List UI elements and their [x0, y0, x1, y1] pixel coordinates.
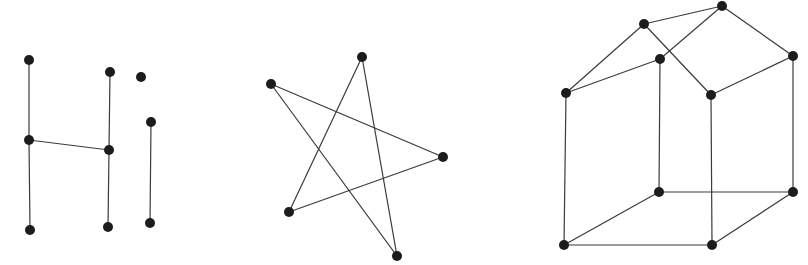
edge-i2-i3 — [150, 122, 151, 223]
edge-a-d — [566, 24, 644, 93]
edge-c-d — [566, 59, 660, 93]
node-s5 — [392, 251, 402, 261]
edge-b-c — [660, 6, 722, 59]
edge-a-e — [644, 24, 711, 95]
node-b — [717, 1, 727, 11]
edge-h4-h5 — [109, 72, 110, 150]
node-h6 — [103, 222, 113, 232]
node-g — [654, 187, 664, 197]
edge-b-f — [722, 6, 793, 56]
edge-e-j — [711, 95, 712, 245]
node-h3 — [25, 225, 35, 235]
node-i1 — [136, 72, 146, 82]
node-h — [788, 187, 798, 197]
hi-graph — [24, 55, 156, 235]
star-graph — [266, 52, 448, 261]
node-h1 — [24, 55, 34, 65]
edge-h5-h6 — [108, 150, 109, 227]
edge-c-g — [659, 59, 660, 192]
node-s2 — [266, 79, 276, 89]
node-s1 — [357, 52, 367, 62]
edge-s2-s5 — [271, 84, 397, 256]
edge-s1-s5 — [362, 57, 397, 256]
node-s4 — [284, 207, 294, 217]
node-h2 — [24, 135, 34, 145]
edge-h-j — [712, 192, 793, 245]
node-s3 — [438, 152, 448, 162]
edge-d-i — [564, 93, 566, 245]
edge-s1-s4 — [289, 57, 362, 212]
edge-e-f — [711, 56, 793, 95]
node-f — [788, 51, 798, 61]
node-d — [561, 88, 571, 98]
node-i — [559, 240, 569, 250]
edge-g-i — [564, 192, 659, 245]
node-h4 — [105, 67, 115, 77]
node-e — [706, 90, 716, 100]
node-i2 — [146, 117, 156, 127]
node-a — [639, 19, 649, 29]
node-i3 — [145, 218, 155, 228]
edge-h2-h5 — [29, 140, 109, 150]
edge-s2-s3 — [271, 84, 443, 157]
edge-h2-h3 — [29, 140, 30, 230]
node-h5 — [104, 145, 114, 155]
edge-s4-s3 — [289, 157, 443, 212]
house-graph — [559, 1, 798, 250]
edge-a-b — [644, 6, 722, 24]
node-j — [707, 240, 717, 250]
node-c — [655, 54, 665, 64]
graph-diagram-canvas — [0, 0, 808, 265]
